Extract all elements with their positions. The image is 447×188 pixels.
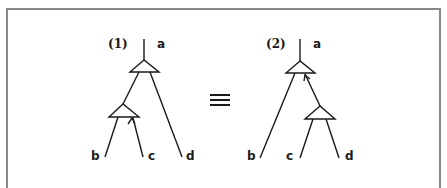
leaf-label-d: d — [345, 149, 354, 163]
top-node-triangle-icon — [130, 60, 159, 72]
equivalence-icon — [210, 95, 230, 105]
edge-lower-node-arrow — [305, 74, 320, 106]
edge-d — [326, 119, 339, 158]
tree-diagram: (1) a b c d (2) a b c d — [0, 0, 447, 188]
tree-label-1: (1) — [108, 37, 128, 51]
edge-d — [150, 72, 182, 157]
left-tree — [105, 39, 182, 157]
edge-b — [105, 117, 118, 157]
leaf-label-b: b — [91, 149, 100, 163]
node-label-a: a — [157, 37, 165, 51]
leaf-label-d: d — [186, 149, 195, 163]
leaf-label-c: c — [286, 149, 293, 163]
tree-label-2: (2) — [266, 37, 286, 51]
edge-b — [260, 73, 295, 158]
edge-to-lower-node — [123, 72, 139, 104]
node-label-a: a — [313, 37, 321, 51]
edge-c — [300, 119, 313, 158]
right-tree — [260, 39, 339, 158]
leaf-label-c: c — [148, 149, 155, 163]
leaf-label-b: b — [247, 149, 256, 163]
top-node-triangle-icon — [286, 61, 315, 73]
lower-node-triangle-icon — [305, 106, 335, 119]
lower-node-triangle-icon — [109, 104, 139, 117]
